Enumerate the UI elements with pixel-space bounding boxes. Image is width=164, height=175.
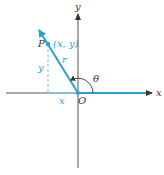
- x-axis-label: x: [156, 88, 162, 98]
- polar-coordinate-diagram: [0, 0, 164, 175]
- y-axis-label: y: [75, 2, 81, 12]
- radius-label: r: [62, 55, 67, 65]
- point-coords-label: (x, y): [53, 39, 78, 49]
- theta-label: θ: [93, 74, 99, 84]
- point-p-label: P: [38, 39, 45, 49]
- x-length-label: x: [59, 96, 65, 106]
- origin-label: O: [78, 96, 86, 106]
- point-p: [46, 42, 50, 46]
- y-length-label: y: [38, 63, 44, 73]
